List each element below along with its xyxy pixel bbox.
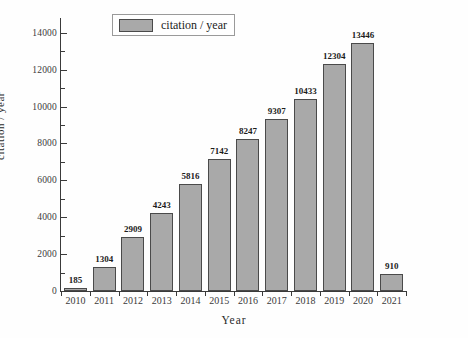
bar-2015[interactable]: [208, 159, 231, 291]
y-tick-label: 0: [52, 286, 57, 296]
x-tick: [147, 291, 148, 296]
bar-value-label: 1304: [95, 254, 113, 264]
bar-value-label: 185: [69, 275, 83, 285]
bar-2011[interactable]: [93, 267, 116, 291]
x-tick: [320, 291, 321, 296]
x-tick-label: 2013: [152, 295, 172, 306]
legend-label: citation / year: [161, 18, 227, 33]
x-tick: [205, 291, 206, 296]
y-tick-label: 12000: [32, 65, 57, 75]
x-tick-label: 2017: [267, 295, 287, 306]
y-tick-label: 10000: [32, 102, 57, 112]
bar-2014[interactable]: [179, 184, 202, 291]
x-tick-label: 2020: [353, 295, 373, 306]
bar-2019[interactable]: [323, 64, 346, 291]
x-tick: [406, 291, 407, 296]
plot-area: 1851304290942435816714282479307104331230…: [61, 18, 406, 291]
bar-value-label: 910: [385, 261, 399, 271]
x-axis-title: Year: [0, 314, 468, 326]
y-tick-label: 14000: [32, 28, 57, 38]
x-tick: [349, 291, 350, 296]
x-tick-label: 2011: [94, 295, 114, 306]
bar-2013[interactable]: [150, 213, 173, 291]
x-tick: [377, 291, 378, 296]
bar-value-label: 12304: [323, 51, 346, 61]
x-tick-label: 2014: [180, 295, 200, 306]
x-tick: [262, 291, 263, 296]
bar-value-label: 10433: [294, 86, 317, 96]
bar-2016[interactable]: [236, 139, 259, 291]
bar-value-label: 4243: [153, 200, 171, 210]
x-tick: [234, 291, 235, 296]
bar-2018[interactable]: [294, 99, 317, 291]
bar-value-label: 2909: [124, 224, 142, 234]
x-tick: [176, 291, 177, 296]
y-tick-label: 2000: [37, 249, 57, 259]
y-axis-title: citation / year: [0, 92, 6, 160]
bar-2021[interactable]: [380, 274, 403, 291]
y-tick-label: 8000: [37, 138, 57, 148]
x-tick-label: 2018: [295, 295, 315, 306]
x-tick: [61, 291, 62, 296]
x-tick: [291, 291, 292, 296]
x-tick-label: 2019: [324, 295, 344, 306]
bar-value-label: 7142: [210, 146, 228, 156]
y-tick-label: 4000: [37, 212, 57, 222]
x-tick: [119, 291, 120, 296]
x-tick-label: 2021: [382, 295, 402, 306]
x-tick-label: 2010: [65, 295, 85, 306]
legend-swatch-icon: [119, 19, 153, 32]
bar-2020[interactable]: [351, 43, 374, 291]
bar-value-label: 9307: [268, 106, 286, 116]
bar-2012[interactable]: [121, 237, 144, 291]
bar-value-label: 8247: [239, 126, 257, 136]
bar-value-label: 13446: [352, 30, 375, 40]
y-tick-label: 6000: [37, 175, 57, 185]
x-tick-label: 2012: [123, 295, 143, 306]
citation-bar-chart: citation / year 020004000600080001000012…: [0, 0, 468, 338]
chart-legend[interactable]: citation / year: [112, 14, 235, 36]
x-tick: [90, 291, 91, 296]
x-tick-label: 2015: [209, 295, 229, 306]
bar-value-label: 5816: [181, 171, 199, 181]
bar-2017[interactable]: [265, 119, 288, 291]
x-tick-label: 2016: [238, 295, 258, 306]
bar-2010[interactable]: [64, 288, 87, 291]
